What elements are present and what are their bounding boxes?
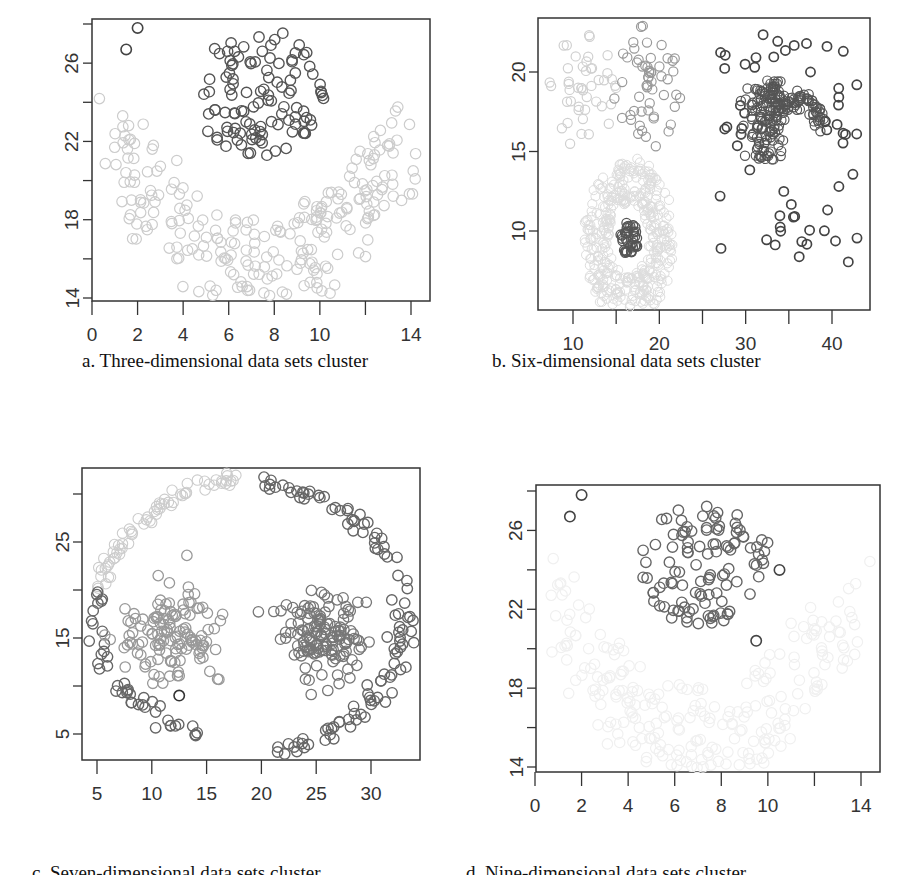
data-point [563, 118, 572, 127]
scatter-panel-d: 14182226024681014 [506, 485, 881, 816]
data-point [635, 92, 644, 101]
data-point [120, 662, 130, 672]
data-point [564, 688, 574, 698]
caption-b: b. Six-dimensional data sets cluster [492, 350, 761, 372]
data-point [110, 129, 120, 139]
data-point [716, 244, 725, 253]
data-point [124, 213, 134, 223]
data-point [624, 661, 634, 671]
data-point [300, 674, 310, 684]
data-point [775, 211, 784, 220]
data-point [548, 553, 558, 563]
data-point [392, 552, 402, 562]
data-point [839, 47, 848, 56]
data-point [332, 249, 342, 259]
data-point [581, 612, 591, 622]
y-tick-label: 25 [52, 531, 73, 552]
x-tick-label: 20 [251, 783, 272, 804]
data-point [562, 655, 572, 665]
data-point [262, 150, 272, 160]
data-point [332, 595, 342, 605]
data-point [604, 119, 613, 128]
data-point [300, 663, 310, 673]
data-point [363, 235, 373, 245]
data-point [565, 511, 575, 521]
data-point [557, 124, 566, 133]
data-point [355, 509, 365, 519]
data-point [201, 251, 211, 261]
data-point [375, 125, 385, 135]
data-point [834, 182, 843, 191]
data-point [387, 595, 397, 605]
data-point [850, 619, 860, 629]
data-point [628, 737, 638, 747]
data-point [97, 626, 107, 636]
data-point [167, 485, 177, 495]
x-tick-label: 10 [309, 324, 330, 345]
data-point [748, 736, 758, 746]
data-point [562, 615, 572, 625]
data-point [174, 189, 184, 199]
data-point [210, 644, 220, 654]
data-point [88, 606, 98, 616]
data-point [745, 543, 755, 553]
data-point [204, 74, 214, 84]
data-point [306, 689, 316, 699]
data-point [118, 111, 128, 121]
data-point [774, 565, 784, 575]
data-point [776, 691, 786, 701]
data-point [363, 517, 373, 527]
data-point [710, 539, 720, 549]
data-point [192, 475, 202, 485]
data-point [172, 242, 182, 252]
data-point [831, 616, 841, 626]
data-point [667, 542, 677, 552]
data-point [379, 200, 389, 210]
data-point [592, 97, 601, 106]
data-point [370, 138, 380, 148]
data-point [212, 132, 222, 142]
data-point [824, 622, 834, 632]
data-point [667, 613, 677, 623]
data-point [217, 609, 227, 619]
data-point [852, 129, 861, 138]
data-point [733, 141, 742, 150]
data-point [404, 119, 414, 129]
data-point [720, 64, 729, 73]
data-point [583, 644, 593, 654]
data-point [262, 65, 272, 75]
data-point [262, 252, 272, 262]
data-point [292, 264, 302, 274]
data-point [546, 590, 556, 600]
data-point [657, 702, 667, 712]
data-point [140, 702, 150, 712]
data-point [642, 38, 651, 47]
data-point [136, 650, 146, 660]
data-point [603, 51, 612, 60]
data-point [739, 121, 748, 130]
data-point [676, 515, 686, 525]
data-point [341, 601, 351, 611]
data-point [323, 263, 333, 273]
data-point [164, 578, 174, 588]
data-point [775, 649, 785, 659]
data-point [153, 570, 163, 580]
data-point [852, 637, 862, 647]
data-point [691, 560, 701, 570]
data-point [850, 649, 860, 659]
data-point [664, 195, 673, 204]
data-point [685, 712, 695, 722]
data-point [551, 611, 561, 621]
data-point [119, 177, 129, 187]
data-point [364, 637, 374, 647]
data-point [833, 597, 843, 607]
data-point [142, 167, 152, 177]
data-point [241, 87, 251, 97]
data-point [742, 678, 752, 688]
x-tick-label: 4 [178, 324, 189, 345]
data-point [646, 53, 655, 62]
data-point [566, 139, 575, 148]
data-point [741, 60, 750, 69]
data-point [852, 234, 861, 243]
data-point [192, 191, 202, 201]
